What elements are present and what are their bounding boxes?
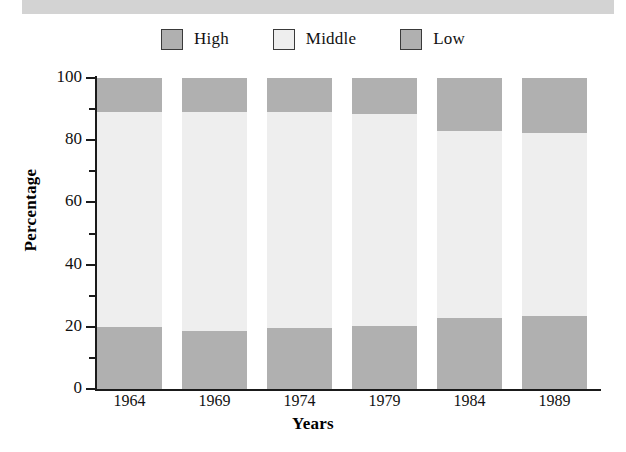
y-axis-label: Percentage bbox=[21, 145, 41, 275]
x-tick-label-1984: 1984 bbox=[425, 392, 515, 410]
y-tick-label: 100 bbox=[38, 67, 82, 87]
bar-segment-middle bbox=[437, 131, 502, 318]
bar-1979[interactable] bbox=[352, 78, 417, 389]
bar-segment-low bbox=[97, 327, 162, 389]
y-tick-major bbox=[86, 326, 95, 328]
y-tick-label: 20 bbox=[38, 316, 82, 336]
bar-segment-high bbox=[522, 78, 587, 133]
y-tick-label: 60 bbox=[38, 191, 82, 211]
y-tick-major bbox=[86, 201, 95, 203]
bar-segment-high bbox=[182, 78, 247, 112]
bar-segment-high bbox=[352, 78, 417, 114]
x-axis-line bbox=[95, 389, 601, 391]
bar-segment-low bbox=[267, 328, 332, 389]
bar-1989[interactable] bbox=[522, 78, 587, 389]
bar-segment-low bbox=[182, 331, 247, 389]
y-tick-label: 40 bbox=[38, 254, 82, 274]
bar-segment-middle bbox=[97, 112, 162, 327]
chart-page: HighMiddleLow 020406080100 Percentage 19… bbox=[0, 0, 626, 452]
bar-segment-middle bbox=[352, 114, 417, 326]
plot-area: 020406080100 Percentage 1964196919741979… bbox=[0, 0, 626, 452]
bar-segment-low bbox=[437, 318, 502, 389]
x-tick-label-1989: 1989 bbox=[510, 392, 600, 410]
y-tick-major bbox=[86, 139, 95, 141]
x-tick-label-1979: 1979 bbox=[340, 392, 430, 410]
bar-1984[interactable] bbox=[437, 78, 502, 389]
y-tick-major bbox=[86, 264, 95, 266]
bar-1974[interactable] bbox=[267, 78, 332, 389]
x-tick-label-1964: 1964 bbox=[85, 392, 175, 410]
x-axis-label: Years bbox=[0, 414, 626, 434]
bar-segment-middle bbox=[522, 133, 587, 316]
bar-group bbox=[95, 78, 601, 389]
y-tick-major bbox=[86, 388, 95, 390]
y-tick-label: 80 bbox=[38, 129, 82, 149]
bar-segment-high bbox=[97, 78, 162, 112]
bar-segment-low bbox=[522, 316, 587, 389]
bar-segment-low bbox=[352, 326, 417, 389]
y-tick-major bbox=[86, 77, 95, 79]
bar-1964[interactable] bbox=[97, 78, 162, 389]
bar-segment-high bbox=[267, 78, 332, 112]
bar-segment-middle bbox=[182, 112, 247, 331]
bar-segment-high bbox=[437, 78, 502, 131]
x-tick-label-1969: 1969 bbox=[170, 392, 260, 410]
bar-1969[interactable] bbox=[182, 78, 247, 389]
y-tick-label: 0 bbox=[38, 378, 82, 398]
bar-segment-middle bbox=[267, 112, 332, 328]
x-tick-label-1974: 1974 bbox=[255, 392, 345, 410]
